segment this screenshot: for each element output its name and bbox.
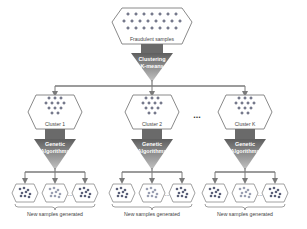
- sample-dot: [239, 188, 242, 191]
- ga-label-line2: Algorithms: [40, 148, 69, 154]
- output-connectors: [122, 168, 182, 181]
- sample-dot: [80, 195, 83, 198]
- output-connectors: [215, 168, 275, 181]
- sample-dot: [218, 196, 221, 199]
- sample-dot: [81, 192, 84, 195]
- sample-dot: [120, 187, 123, 190]
- generated-sample-set: [42, 184, 68, 202]
- sample-dot: [59, 193, 62, 196]
- cluster-node: Cluster 1: [28, 95, 82, 129]
- ga-label-line1: Genetic: [45, 141, 65, 147]
- sample-dot: [277, 189, 280, 192]
- output-label: New samples generated: [27, 211, 83, 217]
- sample-dot: [83, 187, 86, 190]
- cluster-label: Cluster 2: [142, 121, 162, 127]
- sample-dot: [116, 188, 119, 191]
- sample-dot: [184, 189, 187, 192]
- samples-ellipsis: ...: [67, 191, 72, 197]
- ga-stem: [45, 129, 65, 140]
- sample-dot: [147, 195, 150, 198]
- sample-dot: [273, 187, 276, 190]
- sample-dot: [249, 193, 252, 196]
- sample-dot: [87, 189, 90, 192]
- sample-dot: [117, 195, 120, 198]
- output-connectors: [25, 168, 85, 181]
- sample-dot: [20, 195, 23, 198]
- cluster-node: Cluster K: [218, 95, 272, 129]
- sample-dot: [19, 188, 22, 191]
- sample-dot: [84, 195, 87, 198]
- generated-sample-set: [262, 184, 288, 202]
- sample-dot: [176, 188, 179, 191]
- sample-dot: [27, 189, 30, 192]
- generated-sample-set: [72, 184, 98, 202]
- sample-dot: [210, 195, 213, 198]
- sample-dot: [154, 189, 157, 192]
- sample-dot: [177, 195, 180, 198]
- ga-stem: [235, 129, 255, 140]
- sample-dot: [279, 193, 282, 196]
- clustering-step: Clustering K-means: [131, 44, 173, 82]
- sample-dot: [269, 188, 272, 191]
- sample-dot: [182, 191, 185, 194]
- sample-dot: [57, 189, 60, 192]
- sample-dot: [278, 196, 281, 199]
- sample-dot: [79, 188, 82, 191]
- sample-dot: [275, 191, 278, 194]
- sample-dot: [243, 187, 246, 190]
- sample-dot: [53, 187, 56, 190]
- sample-dot: [23, 187, 26, 190]
- generated-sample-set: [12, 184, 38, 202]
- sample-dot: [219, 193, 222, 196]
- sample-dot: [24, 195, 27, 198]
- grouping-brace: [112, 204, 192, 210]
- sample-dot: [248, 196, 251, 199]
- samples-ellipsis: ...: [257, 191, 262, 197]
- root-label: Fraudulent samples: [130, 36, 174, 42]
- sample-dot: [118, 192, 121, 195]
- sample-dot: [241, 192, 244, 195]
- generated-sample-set: [139, 184, 165, 202]
- sample-dot: [54, 195, 57, 198]
- sample-dot: [126, 193, 129, 196]
- sample-dot: [85, 191, 88, 194]
- sample-dot: [25, 191, 28, 194]
- sample-dot: [51, 192, 54, 195]
- grouping-brace: [205, 204, 285, 210]
- clustering-label-line1: Clustering: [138, 56, 165, 62]
- sample-dot: [88, 196, 91, 199]
- clusters-group: Cluster 1GeneticAlgorithms...New samples…: [12, 95, 288, 217]
- generated-sample-set: [202, 184, 228, 202]
- generated-sample-set: [169, 184, 195, 202]
- cluster-node: Cluster 2: [125, 95, 179, 129]
- sample-dot: [215, 191, 218, 194]
- sample-dot: [49, 188, 52, 191]
- sample-dot: [148, 192, 151, 195]
- generated-sample-set: [109, 184, 135, 202]
- sample-dot: [185, 196, 188, 199]
- clustering-stem: [141, 44, 163, 54]
- sample-dot: [180, 187, 183, 190]
- sample-dot: [211, 192, 214, 195]
- sample-dot: [244, 195, 247, 198]
- grouping-brace: [15, 204, 95, 210]
- output-label: New samples generated: [124, 211, 180, 217]
- sample-dot: [209, 188, 212, 191]
- sample-dot: [247, 189, 250, 192]
- sample-dot: [50, 195, 53, 198]
- sample-dot: [240, 195, 243, 198]
- sample-dot: [274, 195, 277, 198]
- ga-label-line1: Genetic: [235, 141, 255, 147]
- root-node: Fraudulent samples: [112, 8, 192, 44]
- sample-dot: [124, 189, 127, 192]
- ga-stem: [142, 129, 162, 140]
- sample-dot: [181, 195, 184, 198]
- sample-dot: [151, 195, 154, 198]
- output-label: New samples generated: [217, 211, 273, 217]
- ga-label-line1: Genetic: [142, 141, 162, 147]
- ga-label-line2: Algorithms: [230, 148, 259, 154]
- sample-dot: [58, 196, 61, 199]
- sample-dot: [146, 188, 149, 191]
- sample-dot: [213, 187, 216, 190]
- cluster-label: Cluster 1: [45, 121, 65, 127]
